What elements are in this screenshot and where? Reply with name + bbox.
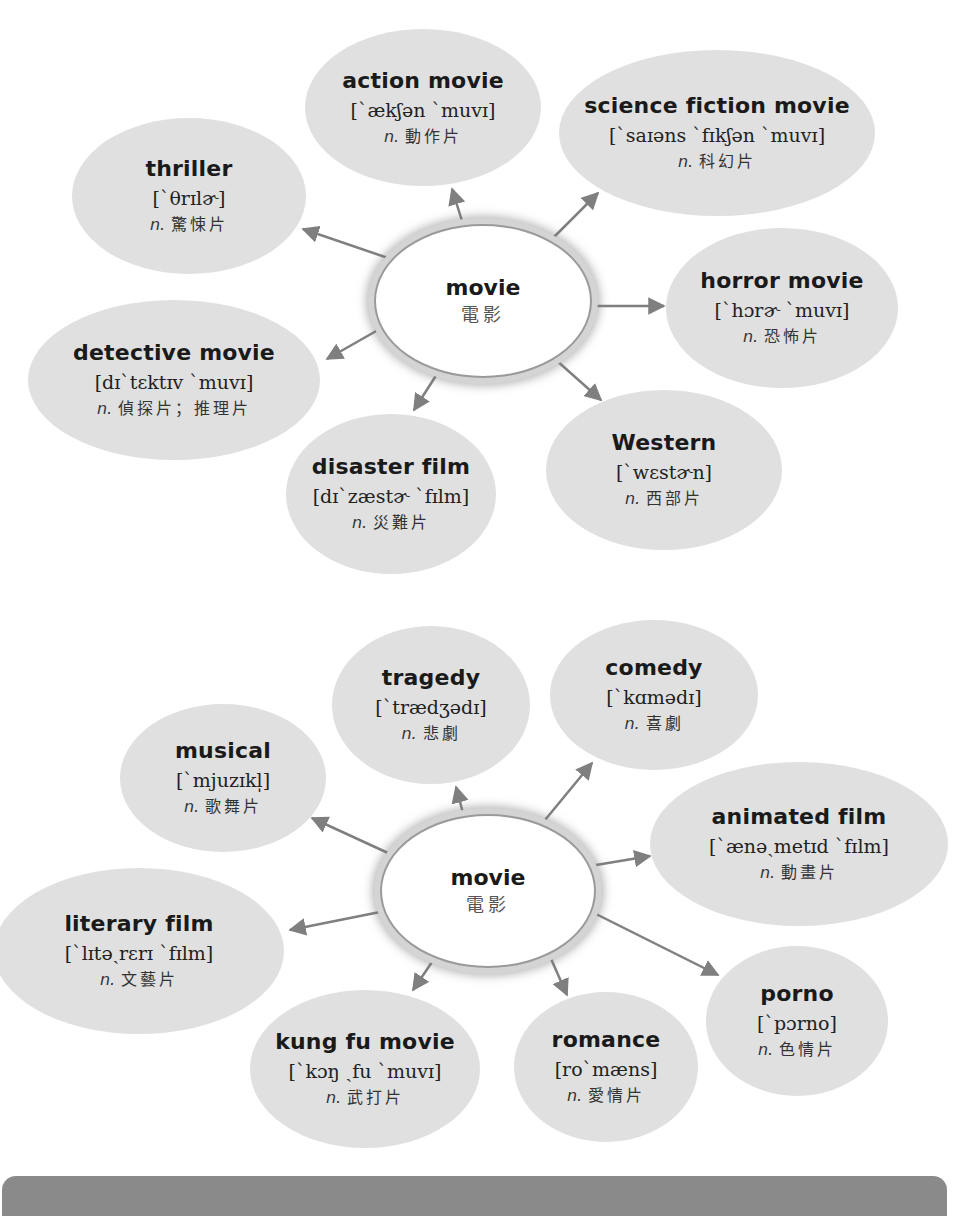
node-detective-movie: detective movie [dɪ`tɛktɪv `muvɪ] n.偵探片；… [28, 300, 320, 460]
arrow-to-musical [312, 818, 388, 853]
part-of-speech: n. [758, 1040, 773, 1059]
node-translation: 歌舞片 [205, 797, 262, 816]
center-node-movie: movie 電影 [380, 814, 596, 968]
node-term: disaster film [312, 452, 470, 482]
node-ipa: [`lɪtəˏrɛrɪ `fɪlm] [65, 939, 214, 967]
center-translation: 電影 [461, 302, 505, 328]
node-term: musical [175, 736, 271, 766]
node-ipa: [dɪ`zæstɚ `fɪlm] [313, 482, 470, 510]
node-translation: 愛情片 [588, 1086, 645, 1105]
node-definition: n.西部片 [625, 486, 703, 512]
node-science-fiction-movie: science fiction movie [`saɪəns `fɪkʃən `… [559, 50, 875, 216]
node-ipa: [`kɔŋ ˏfu `muvɪ] [289, 1057, 442, 1085]
arrow-to-tragedy [456, 787, 463, 813]
node-ipa: [`trædʒədɪ] [375, 693, 486, 721]
node-term: Western [612, 428, 717, 458]
node-definition: n.科幻片 [678, 149, 756, 175]
node-ipa: [`kɑmədɪ] [606, 683, 702, 711]
node-translation: 動作片 [405, 127, 462, 146]
node-term: porno [760, 979, 834, 1009]
arrow-to-romance [548, 952, 567, 995]
part-of-speech: n. [567, 1086, 582, 1105]
node-action-movie: action movie [`ækʃən `muvɪ] n.動作片 [305, 29, 541, 186]
part-of-speech: n. [384, 127, 399, 146]
part-of-speech: n. [401, 724, 416, 743]
node-term: thriller [145, 154, 232, 184]
node-definition: n.動畫片 [760, 860, 838, 886]
node-term: animated film [712, 802, 887, 832]
node-tragedy: tragedy [`trædʒədɪ] n.悲劇 [332, 626, 530, 784]
node-term: tragedy [382, 663, 480, 693]
part-of-speech: n. [678, 152, 693, 171]
node-translation: 喜劇 [646, 714, 684, 733]
node-term: romance [552, 1025, 661, 1055]
node-translation: 災難片 [373, 513, 430, 532]
part-of-speech: n. [100, 970, 115, 989]
node-definition: n.災難片 [352, 510, 430, 536]
node-western: Western [`wɛstɚn] n.西部片 [546, 390, 782, 550]
node-translation: 動畫片 [781, 863, 838, 882]
arrow-to-thriller [303, 229, 388, 258]
part-of-speech: n. [624, 714, 639, 733]
node-translation: 恐怖片 [764, 327, 821, 346]
node-term: detective movie [73, 338, 275, 368]
node-definition: n.動作片 [384, 124, 462, 150]
node-translation: 色情片 [779, 1040, 836, 1059]
node-translation: 悲劇 [423, 724, 461, 743]
arrow-to-science-fiction-movie [553, 193, 598, 238]
node-animated-film: animated film [`ænəˏmetɪd `fɪlm] n.動畫片 [650, 762, 948, 926]
node-ipa: [`pɔrno] [757, 1009, 837, 1037]
arrow-to-kung-fu-movie [413, 962, 432, 990]
node-literary-film: literary film [`lɪtəˏrɛrɪ `fɪlm] n.文藝片 [0, 868, 284, 1034]
arrow-to-comedy [545, 763, 592, 820]
arrow-to-detective-movie [327, 330, 378, 359]
arrow-to-porno [592, 912, 718, 975]
node-term: science fiction movie [584, 91, 850, 121]
node-term: kung fu movie [275, 1027, 455, 1057]
node-definition: n.恐怖片 [743, 324, 821, 350]
node-disaster-film: disaster film [dɪ`zæstɚ `fɪlm] n.災難片 [286, 414, 496, 574]
node-ipa: [`hɔrɚ `muvɪ] [715, 296, 850, 324]
center-translation: 電影 [466, 892, 510, 918]
part-of-speech: n. [150, 215, 165, 234]
footer-bar [2, 1176, 947, 1216]
part-of-speech: n. [625, 489, 640, 508]
node-definition: n.愛情片 [567, 1083, 645, 1109]
node-term: comedy [605, 653, 702, 683]
node-translation: 科幻片 [699, 152, 756, 171]
part-of-speech: n. [326, 1088, 341, 1107]
node-porno: porno [`pɔrno] n.色情片 [706, 946, 888, 1096]
node-thriller: thriller [`θrɪlɚ] n.驚悚片 [72, 118, 306, 274]
node-definition: n.歌舞片 [184, 794, 262, 820]
node-definition: n.驚悚片 [150, 212, 228, 238]
node-definition: n.文藝片 [100, 967, 178, 993]
center-term: movie [451, 864, 526, 892]
arrow-to-disaster-film [414, 374, 437, 410]
node-ipa: [`wɛstɚn] [616, 458, 712, 486]
node-translation: 武打片 [347, 1088, 404, 1107]
arrow-to-animated-film [590, 856, 650, 866]
node-romance: romance [ro`mæns] n.愛情片 [514, 992, 698, 1142]
node-ipa: [`ænəˏmetɪd `fɪlm] [709, 832, 889, 860]
center-node-movie: movie 電影 [374, 224, 592, 378]
node-definition: n.悲劇 [401, 721, 460, 747]
node-term: action movie [342, 66, 504, 96]
node-definition: n.偵探片；推理片 [97, 396, 251, 422]
part-of-speech: n. [97, 399, 112, 418]
center-term: movie [446, 274, 521, 302]
node-translation: 驚悚片 [171, 215, 228, 234]
node-translation: 文藝片 [121, 970, 178, 989]
part-of-speech: n. [760, 863, 775, 882]
node-ipa: [`mjuzɪkl̩] [176, 766, 270, 794]
node-ipa: [ro`mæns] [555, 1055, 658, 1083]
node-term: horror movie [700, 266, 863, 296]
node-comedy: comedy [`kɑmədɪ] n.喜劇 [550, 620, 758, 770]
node-definition: n.色情片 [758, 1037, 836, 1063]
arrow-to-action-movie [452, 189, 463, 224]
node-horror-movie: horror movie [`hɔrɚ `muvɪ] n.恐怖片 [666, 228, 898, 388]
arrow-to-literary-film [290, 912, 380, 930]
node-translation: 偵探片；推理片 [118, 399, 251, 418]
node-ipa: [dɪ`tɛktɪv `muvɪ] [95, 368, 254, 396]
part-of-speech: n. [352, 513, 367, 532]
node-musical: musical [`mjuzɪkl̩] n.歌舞片 [120, 704, 326, 852]
